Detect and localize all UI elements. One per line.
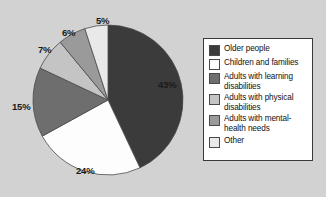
legend-swatch-other [209, 137, 220, 148]
legend-label-other: Other [224, 136, 244, 146]
slice-label-other: 5% [96, 15, 109, 26]
legend-item-learning-disabilities: Adults with learning disabilities [209, 72, 308, 91]
pie-chart-figure: 43% 24% 15% 7% 6% 5% Older people Childr… [0, 0, 326, 197]
legend-item-older-people: Older people [209, 44, 308, 56]
legend-swatch-children-and-families [209, 59, 220, 70]
pie-slices [33, 25, 183, 175]
slice-label-physical-disabilities: 7% [38, 44, 51, 55]
slice-label-mental-health-needs: 6% [62, 27, 75, 38]
chart-legend: Older people Children and families Adult… [203, 38, 313, 161]
pie-svg [0, 0, 200, 197]
legend-swatch-older-people [209, 45, 220, 56]
legend-label-physical-disabilities: Adults with physical disabilities [224, 93, 308, 112]
pie-plot-area: 43% 24% 15% 7% 6% 5% [0, 0, 200, 197]
legend-item-physical-disabilities: Adults with physical disabilities [209, 93, 308, 112]
legend-item-children-and-families: Children and families [209, 58, 308, 70]
legend-label-mental-health-needs: Adults with mental-health needs [224, 114, 308, 133]
legend-label-learning-disabilities: Adults with learning disabilities [224, 72, 308, 91]
legend-item-mental-health-needs: Adults with mental-health needs [209, 114, 308, 133]
slice-label-children-and-families: 24% [76, 165, 94, 176]
legend-label-older-people: Older people [224, 44, 270, 54]
legend-swatch-mental-health-needs [209, 115, 220, 126]
legend-swatch-learning-disabilities [209, 73, 220, 84]
legend-label-children-and-families: Children and families [224, 58, 298, 68]
legend-swatch-physical-disabilities [209, 94, 220, 105]
legend-item-other: Other [209, 136, 308, 148]
slice-label-learning-disabilities: 15% [12, 101, 30, 112]
slice-label-older-people: 43% [158, 79, 176, 90]
